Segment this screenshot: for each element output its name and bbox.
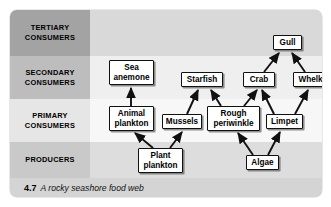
organism-label-sea-anemone: Seaanemone — [114, 63, 150, 82]
trophic-label-primary-line1: PRIMARY — [32, 111, 68, 120]
organism-label-whelk: Whelk — [298, 75, 322, 85]
organism-label-limpet: Limpet — [271, 117, 298, 127]
organism-label-algae: Algae — [251, 158, 273, 168]
organism-label-gull: Gull — [280, 38, 296, 48]
trophic-label-secondary-line2: CONSUMERS — [25, 78, 75, 87]
organism-node-limpet[interactable]: Limpet — [266, 114, 303, 129]
caption-number: 4.7 — [24, 183, 37, 193]
trophic-label-tertiary: TERTIARY CONSUMERS — [10, 10, 90, 56]
organism-label-mussels: Mussels — [166, 117, 198, 127]
organism-node-whelk[interactable]: Whelk — [293, 72, 322, 87]
organism-label-animal-plankton: Animalplankton — [114, 109, 148, 128]
organism-label-crab: Crab — [250, 75, 269, 85]
organism-label-animal-plankton-line1: Animal — [118, 109, 145, 118]
organism-node-sea-anemone[interactable]: Seaanemone — [109, 60, 154, 85]
organism-node-animal-plankton[interactable]: Animalplankton — [109, 106, 154, 131]
organism-node-rough-periwinkle[interactable]: Roughperiwinkle — [207, 106, 260, 131]
organism-node-plant-plankton[interactable]: Plantplankton — [138, 148, 183, 173]
organism-label-rough-periwinkle-line1: Rough — [221, 109, 247, 118]
organism-label-rough-periwinkle: Roughperiwinkle — [213, 109, 253, 128]
organism-node-starfish[interactable]: Starfish — [181, 72, 223, 87]
organism-label-sea-anemone-line2: anemone — [114, 73, 150, 82]
organism-node-gull[interactable]: Gull — [273, 35, 302, 50]
trophic-label-secondary: SECONDARY CONSUMERS — [10, 56, 90, 99]
organism-label-plant-plankton-line1: Plant — [150, 151, 170, 160]
organism-label-rough-periwinkle-line2: periwinkle — [213, 119, 253, 128]
organism-node-mussels[interactable]: Mussels — [162, 114, 202, 129]
organism-label-sea-anemone-line1: Sea — [124, 63, 139, 72]
organism-node-algae[interactable]: Algae — [246, 155, 279, 170]
organism-node-crab[interactable]: Crab — [243, 72, 275, 87]
organism-label-plant-plankton: Plantplankton — [143, 151, 177, 170]
organism-label-plant-plankton-line2: plankton — [143, 161, 177, 170]
figure-card: TERTIARY CONSUMERS SECONDARY CONSUMERS P… — [10, 10, 322, 197]
trophic-label-secondary-line1: SECONDARY — [25, 68, 74, 77]
trophic-label-tertiary-line1: TERTIARY — [31, 23, 70, 32]
trophic-label-tertiary-line2: CONSUMERS — [25, 33, 75, 42]
caption-text: A rocky seashore food web — [41, 183, 144, 193]
organism-label-animal-plankton-line2: plankton — [114, 119, 148, 128]
trophic-label-producers: PRODUCERS — [10, 142, 90, 178]
organism-label-starfish: Starfish — [187, 75, 217, 85]
trophic-label-primary-line2: CONSUMERS — [25, 121, 75, 130]
trophic-label-producers-line1: PRODUCERS — [25, 155, 74, 165]
trophic-label-primary: PRIMARY CONSUMERS — [10, 99, 90, 142]
figure-caption: 4.7 A rocky seashore food web — [10, 178, 322, 197]
